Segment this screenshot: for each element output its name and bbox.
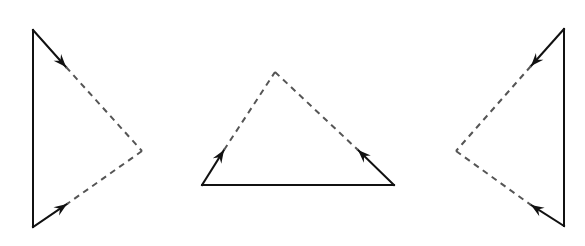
triangle-left — [33, 30, 142, 227]
dashed-side — [224, 72, 275, 150]
triangles-layer — [33, 29, 564, 227]
triangle-right — [456, 29, 564, 226]
vector-triangles-diagram — [0, 0, 585, 246]
dashed-side — [456, 151, 531, 205]
dashed-side — [66, 67, 142, 151]
dashed-side — [275, 72, 358, 150]
arrowhead-icon — [213, 150, 224, 164]
dashed-side — [456, 66, 531, 151]
arrowhead-icon — [531, 205, 545, 216]
arrowhead-icon — [53, 204, 67, 215]
triangle-middle — [202, 72, 394, 185]
dashed-side — [67, 151, 142, 204]
